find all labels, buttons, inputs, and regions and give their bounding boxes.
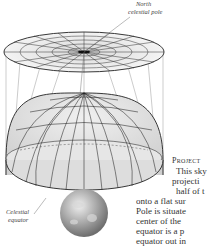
caption-line: Pole is situate	[136, 206, 186, 216]
caption-line: This sky	[176, 166, 207, 176]
caption-line: onto a flat sur	[136, 196, 186, 206]
celestial-hemisphere-dome	[6, 93, 163, 190]
north-celestial-pole-label-line2: celestial pole	[128, 8, 162, 15]
caption-title: Project	[172, 156, 201, 166]
caption-line: half of t	[176, 186, 205, 196]
celestial-equator-label-line2: equator	[8, 216, 28, 223]
caption-line: equator out in	[136, 236, 186, 246]
caption-line: projecti	[172, 176, 200, 186]
caption-line: equator is a p	[136, 226, 184, 236]
earth-globe	[60, 189, 108, 237]
celestial-equator-label-line1: Celestial	[6, 208, 29, 215]
caption-line: center of the	[136, 216, 181, 226]
north-celestial-pole-label-line1: North	[136, 0, 151, 7]
